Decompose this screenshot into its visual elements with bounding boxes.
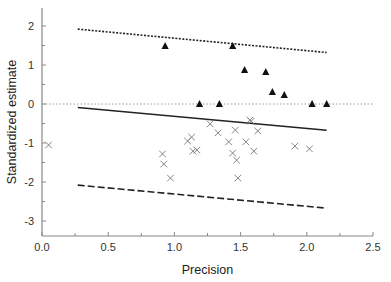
scatter-chart: 210-1-2-30.00.51.01.52.02.5PrecisionStan…	[0, 0, 391, 282]
x-tick-label: 2.5	[365, 241, 380, 253]
cross-marker	[225, 139, 232, 146]
cross-marker	[188, 134, 195, 141]
y-tick-label: -2	[24, 176, 34, 188]
x-tick-label: 2.0	[299, 241, 314, 253]
cross-marker	[161, 161, 168, 168]
y-tick-label: 0	[28, 98, 34, 110]
triangle-marker	[269, 88, 276, 95]
cross-marker	[243, 139, 250, 146]
cross-marker	[207, 121, 214, 128]
triangle-marker	[241, 66, 248, 73]
x-tick-label: 1.0	[167, 241, 182, 253]
lower-bound-line	[78, 185, 327, 208]
cross-marker	[292, 143, 299, 150]
triangle-marker	[262, 68, 269, 75]
y-tick-label: 2	[28, 20, 34, 32]
x-tick-label: 1.5	[233, 241, 248, 253]
y-axis-label: Standardized estimate	[5, 60, 19, 184]
cross-marker	[235, 175, 242, 182]
cross-marker	[233, 157, 240, 164]
y-tick-label: -1	[24, 137, 34, 149]
cross-marker	[306, 146, 313, 153]
y-tick-label: -3	[24, 215, 34, 227]
triangle-marker	[162, 42, 169, 49]
upper-bound-line	[78, 29, 327, 52]
cross-marker	[232, 127, 239, 134]
x-tick-label: 0.5	[101, 241, 116, 253]
triangle-marker	[281, 91, 288, 98]
cross-marker	[159, 151, 166, 158]
cross-marker	[229, 150, 236, 157]
cross-marker	[255, 128, 262, 135]
regression-line	[78, 108, 327, 131]
x-tick-label: 0.0	[34, 241, 49, 253]
cross-marker	[167, 175, 174, 182]
triangle-marker	[308, 100, 315, 107]
cross-marker	[215, 130, 222, 137]
y-tick-label: 1	[28, 59, 34, 71]
x-axis-label: Precision	[182, 263, 233, 277]
cross-marker	[45, 142, 52, 149]
triangle-marker	[229, 42, 236, 49]
cross-marker	[251, 148, 258, 155]
